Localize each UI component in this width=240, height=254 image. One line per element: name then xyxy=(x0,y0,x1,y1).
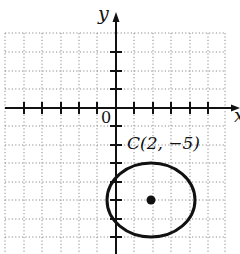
origin-label: 0 xyxy=(101,110,111,126)
y-axis-label: y xyxy=(98,4,109,23)
center-point xyxy=(147,196,156,205)
x-axis xyxy=(5,102,240,114)
coordinate-plane xyxy=(0,0,240,254)
x-axis-label: x xyxy=(234,106,240,125)
center-label: C(2, −5) xyxy=(127,135,200,152)
